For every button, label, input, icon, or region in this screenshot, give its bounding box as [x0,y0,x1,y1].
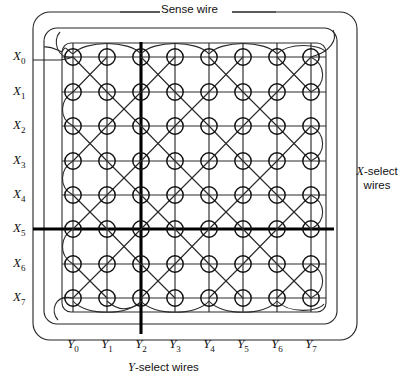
x-axis-label-0: X0 [13,48,25,66]
y-axis-label-3: Y3 [163,336,187,354]
y-axis-label-0: Y0 [61,336,85,354]
x-axis-label-5: X5 [13,220,25,238]
x-axis-label-4: X4 [13,186,25,204]
x-select-wires-label: X-select wires [355,164,399,192]
y-axis-label-7: Y7 [299,336,323,354]
sense-wire-label: Sense wire [161,3,218,15]
x-axis-label-3: X3 [13,152,25,170]
x-axis-label-6: X6 [13,255,25,273]
y-axis-label-6: Y6 [265,336,289,354]
y-axis-label-5: Y5 [231,336,255,354]
y-axis-label-1: Y1 [95,336,119,354]
y-select-wires-label: Y-select wires [128,360,199,375]
core-memory-diagram [0,0,399,380]
x-axis-label-2: X2 [13,117,25,135]
x-axis-label-7: X7 [13,289,25,307]
y-axis-label-4: Y4 [197,336,221,354]
y-axis-label-2: Y2 [129,336,153,354]
x-axis-label-1: X1 [13,83,25,101]
